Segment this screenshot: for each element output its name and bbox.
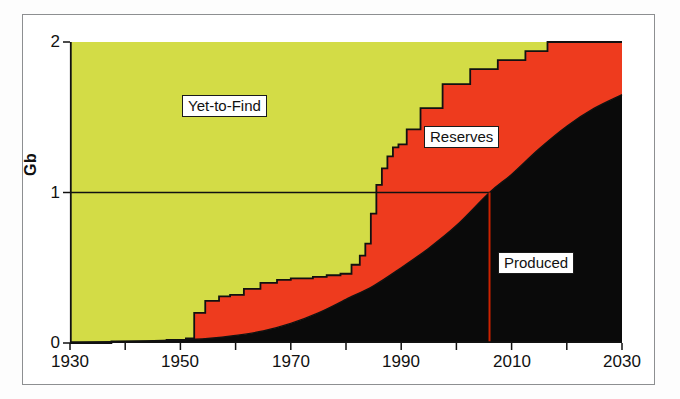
area-chart-svg xyxy=(70,42,622,343)
y-tick-label-2: 2 xyxy=(34,32,60,52)
y-tick-label-1: 1 xyxy=(34,183,60,203)
y-axis-title: Gb xyxy=(22,153,40,176)
figure-root: Gb 2 1 0 1930 1950 1970 1990 2010 2030 Y… xyxy=(0,0,680,399)
x-tick-label-1950: 1950 xyxy=(150,352,210,372)
x-tick-label-1990: 1990 xyxy=(371,352,431,372)
series-label-produced: Produced xyxy=(498,252,574,274)
y-tick-label-0: 0 xyxy=(34,333,60,353)
x-tick-label-2030: 2030 xyxy=(592,352,652,372)
series-label-yet-to-find: Yet-to-Find xyxy=(182,95,267,117)
x-tick-label-1930: 1930 xyxy=(40,352,100,372)
x-tick-label-1970: 1970 xyxy=(261,352,321,372)
x-tick-label-2010: 2010 xyxy=(482,352,542,372)
plot-area xyxy=(70,42,622,343)
series-label-reserves: Reserves xyxy=(424,126,499,148)
